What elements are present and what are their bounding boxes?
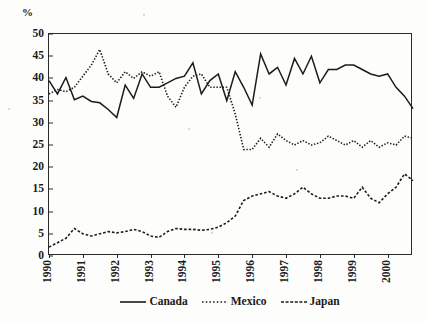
y-axis-tick-mark bbox=[49, 100, 53, 101]
scan-speckle bbox=[8, 108, 10, 110]
y-axis-tick-label: 10 bbox=[33, 206, 50, 218]
x-axis-tick-label: 1996 bbox=[245, 260, 257, 283]
legend-item-japan: Japan bbox=[281, 296, 340, 308]
y-axis-tick-label: 40 bbox=[33, 73, 50, 85]
x-axis-tick-label: 2000 bbox=[381, 260, 393, 283]
y-axis-tick-label: 50 bbox=[33, 28, 50, 40]
x-axis-tick-mark bbox=[252, 254, 253, 258]
series-line-canada bbox=[49, 54, 413, 117]
x-axis-tick-mark bbox=[83, 254, 84, 258]
x-axis-tick-label: 1994 bbox=[177, 260, 189, 283]
series-layer bbox=[49, 34, 413, 256]
x-axis-tick-label: 1995 bbox=[211, 260, 223, 283]
y-axis-tick-mark bbox=[49, 122, 53, 123]
series-line-japan bbox=[49, 174, 413, 247]
y-axis-tick-label: 30 bbox=[33, 117, 50, 129]
plot-area: 05101520253035404550 bbox=[48, 33, 412, 255]
legend-label-canada: Canada bbox=[149, 296, 187, 308]
y-axis-tick-mark bbox=[49, 233, 53, 234]
legend-label-mexico: Mexico bbox=[231, 296, 267, 308]
x-axis-tick-label: 1991 bbox=[76, 260, 88, 283]
y-axis-tick-label: 20 bbox=[33, 161, 50, 173]
chart-screenshot: % 05101520253035404550 Canada Mexico Jap… bbox=[0, 0, 428, 322]
scan-speckle bbox=[143, 14, 145, 16]
y-axis-tick-label: 15 bbox=[33, 184, 50, 196]
y-axis-tick-label: 25 bbox=[33, 139, 50, 151]
legend-swatch-dashed-icon bbox=[281, 298, 307, 306]
legend-swatch-solid-icon bbox=[120, 298, 146, 306]
scan-speckle bbox=[296, 169, 298, 171]
x-axis-tick-label: 1998 bbox=[313, 260, 325, 283]
y-axis-tick-label: 45 bbox=[33, 50, 50, 62]
x-axis-tick-label: 1999 bbox=[347, 260, 359, 283]
y-axis-tick-mark bbox=[49, 34, 53, 35]
x-axis-tick-mark bbox=[320, 254, 321, 258]
x-axis-tick-mark bbox=[388, 254, 389, 258]
legend-swatch-dotted-icon bbox=[202, 298, 228, 306]
x-axis-tick-label: 1992 bbox=[110, 260, 122, 283]
x-axis-tick-mark bbox=[49, 254, 50, 258]
y-axis-tick-label: 5 bbox=[38, 228, 49, 240]
scan-speckle bbox=[188, 128, 190, 130]
x-axis-tick-mark bbox=[151, 254, 152, 258]
x-axis-tick-mark bbox=[218, 254, 219, 258]
x-axis-tick-mark bbox=[184, 254, 185, 258]
y-axis-tick-mark bbox=[49, 145, 53, 146]
legend-item-canada: Canada bbox=[120, 296, 187, 308]
x-axis-tick-mark bbox=[354, 254, 355, 258]
y-axis-tick-mark bbox=[49, 211, 53, 212]
chart-legend: Canada Mexico Japan bbox=[48, 296, 412, 308]
x-axis-tick-label: 1990 bbox=[42, 260, 54, 283]
x-axis-tick-mark bbox=[117, 254, 118, 258]
legend-label-japan: Japan bbox=[310, 296, 340, 308]
y-axis-tick-mark bbox=[49, 78, 53, 79]
y-axis-tick-label: 35 bbox=[33, 95, 50, 107]
scan-speckle bbox=[211, 232, 213, 234]
scan-speckle bbox=[259, 97, 261, 99]
x-axis-tick-label: 1997 bbox=[279, 260, 291, 283]
x-axis-tick-label: 1993 bbox=[144, 260, 156, 283]
legend-item-mexico: Mexico bbox=[202, 296, 267, 308]
y-axis-unit-label: % bbox=[22, 6, 33, 18]
x-axis-tick-mark bbox=[286, 254, 287, 258]
series-line-mexico bbox=[49, 50, 413, 150]
y-axis-tick-mark bbox=[49, 56, 53, 57]
y-axis-tick-mark bbox=[49, 189, 53, 190]
y-axis-tick-mark bbox=[49, 167, 53, 168]
